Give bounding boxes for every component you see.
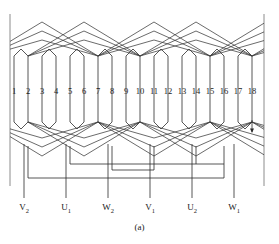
lower-diagonal-off-1-9-a bbox=[140, 122, 196, 147]
lower-diagonal-1--2-b bbox=[42, 122, 98, 147]
terminal-label-U1: U1 bbox=[61, 202, 71, 212]
arrow-head-icon bbox=[250, 129, 254, 134]
slot-number-group: 123456789101112131415161718 bbox=[12, 86, 256, 96]
upper-diagonal-off-2-9-a bbox=[140, 40, 196, 56]
slot-number-17: 17 bbox=[234, 86, 243, 96]
slot-number-2: 2 bbox=[26, 86, 30, 96]
lower-diagonal-2-6-b bbox=[154, 122, 210, 138]
terminal-label-V1: V1 bbox=[145, 202, 155, 212]
terminal-subscript: 2 bbox=[26, 207, 29, 214]
terminal-label-U2: U2 bbox=[187, 202, 197, 212]
terminal-subscript: 2 bbox=[111, 207, 114, 214]
slot-number-8: 8 bbox=[110, 86, 114, 96]
upper-diagonal-0-14-a bbox=[210, 23, 264, 56]
upper-diagonal-2--2-b bbox=[42, 40, 98, 56]
lower-diagonal-1-6-b bbox=[154, 122, 210, 147]
terminal-letter: W bbox=[102, 202, 111, 212]
terminal-subscript: 1 bbox=[237, 207, 240, 214]
upper-diagonal-off-1-1-a bbox=[28, 31, 84, 56]
terminal-subscript: 1 bbox=[152, 207, 155, 214]
upper-diagonal-2--2-a bbox=[10, 40, 42, 49]
slot-number-3: 3 bbox=[40, 86, 44, 96]
upper-diagonal-1--2-b bbox=[42, 31, 98, 56]
upper-overhang-diagonals bbox=[10, 0, 264, 56]
lower-diagonal-off-2-1-a bbox=[28, 122, 84, 138]
upper-diagonal-1-6-b bbox=[154, 31, 210, 56]
slot-number-10: 10 bbox=[136, 86, 145, 96]
coil-nose-top-1 bbox=[14, 49, 28, 56]
terminal-letter: W bbox=[228, 202, 237, 212]
figure-root: 123456789101112131415161718 V2U1W2V1U2W1… bbox=[0, 0, 279, 244]
slot-number-13: 13 bbox=[178, 86, 187, 96]
slot-conductor-bars bbox=[14, 56, 252, 122]
terminal-label-W1: W1 bbox=[228, 202, 240, 212]
phase-bus-connections bbox=[28, 146, 224, 178]
slot-number-7: 7 bbox=[96, 86, 100, 96]
slot-number-16: 16 bbox=[220, 86, 229, 96]
slot-number-15: 15 bbox=[206, 86, 215, 96]
terminal-subscript: 2 bbox=[194, 207, 197, 214]
upper-diagonal-off-1-9-a bbox=[140, 31, 196, 56]
lower-overhang-diagonals bbox=[10, 122, 264, 183]
upper-diagonal-2-6-b bbox=[154, 40, 210, 56]
slot-number-14: 14 bbox=[192, 86, 201, 96]
terminal-label-W2: W2 bbox=[102, 202, 114, 212]
coil-nose-bottom-1 bbox=[14, 122, 28, 129]
slot-number-12: 12 bbox=[164, 86, 173, 96]
slot-number-11: 11 bbox=[150, 86, 158, 96]
lower-diagonal-off-2-9-a bbox=[140, 122, 196, 138]
upper-diagonal-off-0-9-b bbox=[196, 22, 252, 56]
slot-number-9: 9 bbox=[124, 86, 128, 96]
slot-number-1: 1 bbox=[12, 86, 16, 96]
upper-diagonal-0-6-a bbox=[98, 22, 154, 56]
upper-diagonal-off-0-1-b bbox=[84, 22, 140, 56]
slot-number-4: 4 bbox=[54, 86, 59, 96]
terminal-label-V2: V2 bbox=[19, 202, 29, 212]
lower-diagonal-off-1-1-a bbox=[28, 122, 84, 147]
lower-diagonal-0-6-a bbox=[98, 122, 154, 156]
lower-diagonal-2--2-a bbox=[10, 129, 42, 138]
slot-number-18: 18 bbox=[248, 86, 257, 96]
lower-diagonal-0-14-a bbox=[210, 122, 264, 155]
current-direction-arrow bbox=[250, 120, 254, 133]
upper-diagonal-off-2-1-a bbox=[28, 40, 84, 56]
slot-number-6: 6 bbox=[82, 86, 86, 96]
figure-caption: (a) bbox=[0, 222, 279, 232]
terminal-subscript: 1 bbox=[68, 207, 71, 214]
slot-number-5: 5 bbox=[68, 86, 72, 96]
lower-diagonal-2--2-b bbox=[42, 122, 98, 138]
